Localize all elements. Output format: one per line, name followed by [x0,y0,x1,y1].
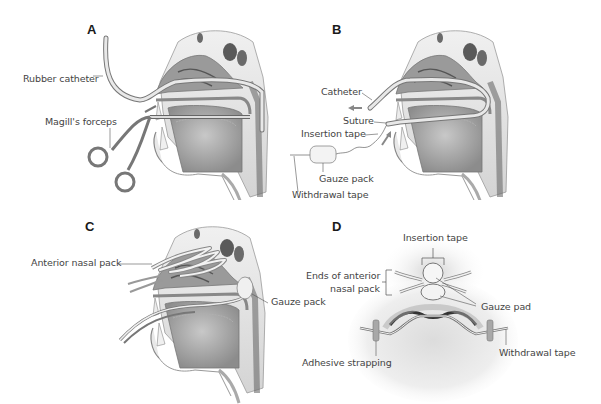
label-magills-forceps: Magill's forceps [45,116,117,127]
label-insertion-tape-b: Insertion tape [301,128,366,139]
label-insertion-tape-d: Insertion tape [403,232,468,243]
panel-d-illustration [290,200,601,404]
label-withdrawal-tape-d: Withdrawal tape [499,347,576,358]
label-withdrawal-tape-b: Withdrawal tape [292,189,369,200]
label-catheter: Catheter [321,86,362,97]
panel-d: D [290,200,601,404]
label-anterior-nasal-pack: Anterior nasal pack [31,257,121,268]
label-ends-anterior-line1: Ends of anterior [306,270,380,281]
label-adhesive-strapping: Adhesive strapping [302,357,392,368]
label-gauze-pack-b: Gauze pack [319,173,374,184]
label-rubber-catheter: Rubber catheter [23,73,99,84]
label-ends-anterior-line2: nasal pack [330,283,380,294]
label-gauze-pad: Gauze pad [481,301,531,312]
panel-a: A Rubber catheter Magill's forceps [0,0,300,200]
panel-b: B Catheter Suture Insertion tape Gauze p… [290,0,601,200]
panel-a-illustration [0,0,300,200]
panel-b-illustration [290,0,601,200]
panel-c-illustration [0,200,300,404]
panel-c: C Anterior nasal pack Gauze pack [0,200,300,404]
label-suture: Suture [343,115,374,126]
